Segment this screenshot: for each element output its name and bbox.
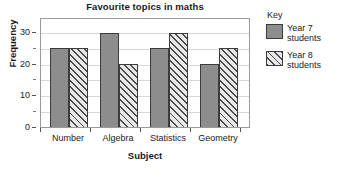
y-tick-mark-5	[33, 111, 36, 112]
y-tick-label-0: 0	[25, 122, 30, 132]
x-tick-label-geometry: Geometry	[198, 133, 238, 143]
x-tick-label-algebra: Algebra	[102, 133, 133, 143]
bar-group-statistics	[149, 19, 189, 127]
y-tick-label-30: 30	[20, 27, 30, 37]
legend-title: Key	[266, 10, 338, 20]
x-tick-label-number: Number	[52, 133, 84, 143]
bar-geometry-year8[interactable]	[219, 48, 238, 127]
y-tick-mark-20	[32, 64, 36, 65]
bar-chart-figure: Favourite topics in maths Frequency 30 2…	[0, 0, 338, 185]
legend-swatch-year8	[266, 51, 283, 66]
bars-layer	[41, 19, 249, 127]
x-tick-mark-1	[90, 128, 91, 132]
y-tick-mark-0	[32, 127, 36, 128]
bar-statistics-year7[interactable]	[150, 48, 169, 127]
x-axis-title: Subject	[40, 150, 250, 161]
x-tick-mark-0	[40, 128, 41, 132]
y-tick-mark-10	[32, 95, 36, 96]
bar-group-number	[49, 19, 89, 127]
bar-number-year8[interactable]	[69, 48, 88, 127]
y-tick-label-10: 10	[20, 90, 30, 100]
legend-entry-year7: Year 7 students	[266, 23, 338, 43]
legend-label-year7: Year 7 students	[287, 23, 321, 43]
legend-label-year7-line2: students	[287, 34, 321, 44]
y-tick-label-20: 20	[20, 59, 30, 69]
bar-geometry-year7[interactable]	[200, 64, 219, 127]
bar-statistics-year8[interactable]	[169, 33, 188, 127]
x-tick-mark-4	[240, 128, 241, 132]
y-tick-mark-30	[32, 32, 36, 33]
y-tick-mark-15	[33, 79, 36, 80]
y-tick-mark-25	[33, 48, 36, 49]
legend-label-year8-line2: students	[287, 61, 321, 71]
x-axis-tick-labels: Number Algebra Statistics Geometry	[40, 133, 250, 147]
y-axis-tick-labels: 30 20 10 0	[0, 18, 36, 128]
legend-entry-year8: Year 8 students	[266, 50, 338, 70]
x-tick-label-statistics: Statistics	[150, 133, 186, 143]
bar-algebra-year7[interactable]	[100, 33, 119, 127]
chart-title: Favourite topics in maths	[40, 1, 250, 12]
bar-algebra-year8[interactable]	[119, 64, 138, 127]
x-tick-mark-2	[140, 128, 141, 132]
legend: Key Year 7 students Year 8 students	[266, 10, 338, 77]
plot-area	[40, 18, 250, 128]
bar-number-year7[interactable]	[50, 48, 69, 127]
legend-swatch-year7	[266, 24, 283, 39]
legend-label-year8: Year 8 students	[287, 50, 321, 70]
x-tick-mark-3	[190, 128, 191, 132]
bar-group-geometry	[199, 19, 239, 127]
bar-group-algebra	[99, 19, 139, 127]
